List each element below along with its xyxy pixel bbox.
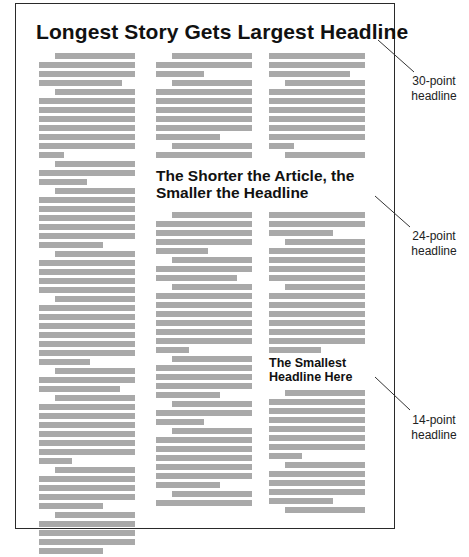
- greeked-text-line: [269, 453, 302, 459]
- greeked-text-line: [39, 422, 135, 428]
- greeked-text-line: [269, 489, 365, 495]
- greeked-text-line: [269, 293, 365, 299]
- greeked-text-line: [39, 323, 135, 329]
- greeked-text-line: [172, 212, 252, 218]
- greeked-text-line: [39, 377, 135, 383]
- greeked-text-line: [172, 257, 252, 263]
- greeked-text-line: [269, 62, 365, 68]
- greeked-text-line: [156, 248, 208, 254]
- greeked-text-line: [269, 444, 365, 450]
- greeked-text-line: [269, 338, 365, 344]
- greeked-text-line: [156, 98, 252, 104]
- greeked-text-line: [156, 392, 220, 398]
- greeked-text-line: [156, 347, 189, 353]
- greeked-text-line: [39, 197, 135, 203]
- greeked-text-line: [156, 500, 252, 506]
- greeked-text-line: [39, 242, 103, 248]
- greeked-text-line: [39, 431, 135, 437]
- greeked-text-line: [39, 287, 135, 293]
- column-right-middle-text: [269, 212, 365, 356]
- greeked-text-line: [39, 350, 135, 356]
- greeked-text-line: [269, 71, 350, 77]
- greeked-text-line: [156, 293, 252, 299]
- greeked-text-line: [269, 266, 365, 272]
- greeked-text-line: [39, 215, 135, 221]
- greeked-text-line: [156, 329, 252, 335]
- greeked-text-line: [156, 302, 252, 308]
- greeked-text-line: [39, 305, 135, 311]
- callout-14-point-size: 14-point: [404, 413, 464, 428]
- greeked-text-line: [39, 413, 135, 419]
- greeked-text-line: [39, 485, 135, 491]
- greeked-text-line: [156, 338, 252, 344]
- greeked-text-line: [156, 482, 220, 488]
- headline-24-point: The Shorter the Article, the Smaller the…: [156, 167, 366, 202]
- greeked-text-line: [269, 329, 365, 335]
- greeked-text-line: [285, 239, 365, 245]
- column-right-bottom-text: [269, 390, 365, 516]
- greeked-text-line: [269, 426, 365, 432]
- callout-24-point-text: headline: [404, 244, 464, 259]
- greeked-text-line: [156, 125, 252, 131]
- greeked-text-line: [156, 365, 252, 371]
- greeked-text-line: [269, 347, 321, 353]
- greeked-text-line: [269, 248, 365, 254]
- greeked-text-line: [269, 230, 333, 236]
- greeked-text-line: [269, 435, 365, 441]
- greeked-text-line: [55, 512, 135, 518]
- greeked-text-line: [55, 467, 135, 473]
- greeked-text-line: [39, 62, 135, 68]
- greeked-text-line: [55, 395, 135, 401]
- greeked-text-line: [39, 359, 90, 365]
- column-right-top-text: [269, 53, 365, 161]
- greeked-text-line: [39, 260, 135, 266]
- greeked-text-line: [269, 311, 365, 317]
- headline-14-point: The Smallest Headline Here: [269, 356, 379, 384]
- greeked-text-line: [269, 471, 365, 477]
- greeked-text-line: [285, 462, 365, 468]
- greeked-text-line: [156, 134, 220, 140]
- column-left-text: [39, 53, 135, 557]
- greeked-text-line: [172, 356, 252, 362]
- greeked-text-line: [39, 341, 135, 347]
- greeked-text-line: [156, 266, 252, 272]
- greeked-text-line: [39, 206, 135, 212]
- greeked-text-line: [269, 212, 365, 218]
- greeked-text-line: [269, 320, 365, 326]
- greeked-text-line: [156, 383, 252, 389]
- greeked-text-line: [269, 498, 333, 504]
- greeked-text-line: [156, 152, 252, 158]
- greeked-text-line: [156, 455, 252, 461]
- greeked-text-line: [269, 143, 294, 149]
- greeked-text-line: [156, 410, 252, 416]
- greeked-text-line: [269, 53, 365, 59]
- greeked-text-line: [156, 437, 252, 443]
- callout-30-point-size: 30-point: [404, 74, 464, 89]
- greeked-text-line: [285, 152, 365, 158]
- greeked-text-line: [156, 89, 252, 95]
- greeked-text-line: [39, 404, 135, 410]
- greeked-text-line: [39, 152, 64, 158]
- greeked-text-line: [39, 143, 135, 149]
- greeked-text-line: [269, 221, 365, 227]
- greeked-text-line: [156, 464, 252, 470]
- greeked-text-line: [55, 89, 135, 95]
- greeked-text-line: [269, 134, 365, 140]
- greeked-text-line: [39, 494, 135, 500]
- greeked-text-line: [55, 368, 135, 374]
- greeked-text-line: [39, 530, 135, 536]
- greeked-text-line: [39, 278, 135, 284]
- headline-30-point: Longest Story Gets Largest Headline: [36, 20, 408, 44]
- greeked-text-line: [156, 446, 252, 452]
- greeked-text-line: [39, 386, 120, 392]
- greeked-text-line: [39, 449, 135, 455]
- greeked-text-line: [285, 284, 365, 290]
- greeked-text-line: [156, 62, 252, 68]
- greeked-text-line: [269, 116, 365, 122]
- greeked-text-line: [156, 275, 237, 281]
- greeked-text-line: [156, 107, 252, 113]
- greeked-text-line: [39, 125, 135, 131]
- greeked-text-line: [172, 401, 252, 407]
- greeked-text-line: [269, 302, 365, 308]
- greeked-text-line: [285, 507, 365, 513]
